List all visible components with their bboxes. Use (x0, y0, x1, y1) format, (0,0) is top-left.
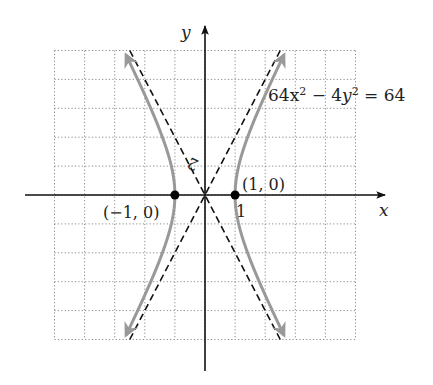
vertex-point (231, 191, 240, 200)
x-tick-label-1: 1 (236, 202, 246, 221)
y-tick-label-2: 2 (184, 153, 201, 175)
equation-label: 64x2 − 4y2 = 64 (268, 85, 405, 106)
hyperbola-chart: y x 1 2 (1, 0) (−1, 0) 64x2 − 4y2 = 64 (0, 0, 433, 385)
eq-sup: 2 (352, 85, 359, 98)
point-label-right: (1, 0) (242, 175, 285, 194)
eq-sup: 2 (299, 85, 306, 98)
y-axis-label: y (180, 22, 191, 42)
eq-part: 64x (268, 85, 300, 105)
eq-part: − 4 (306, 85, 342, 105)
eq-part: y (341, 85, 352, 105)
point-label-left: (−1, 0) (103, 203, 159, 222)
x-axis-label: x (379, 200, 389, 220)
vertex-point (170, 191, 179, 200)
eq-part: = 64 (359, 85, 406, 105)
